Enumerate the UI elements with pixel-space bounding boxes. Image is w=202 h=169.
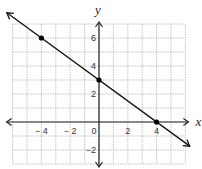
x-tick-label: − 2 <box>64 126 77 136</box>
x-tick-label: 4 <box>154 126 159 136</box>
x-tick-label: 2 <box>125 126 130 136</box>
y-tick-label: 2 <box>91 89 96 99</box>
data-point <box>39 35 44 40</box>
y-tick-label: 4 <box>91 61 96 71</box>
y-tick-label: −2 <box>86 145 96 155</box>
x-tick-label: − 4 <box>35 126 48 136</box>
data-point <box>96 77 101 82</box>
y-axis-label: y <box>93 2 101 17</box>
axes <box>7 22 189 167</box>
data-point <box>154 119 159 124</box>
y-tick-label: 6 <box>91 33 96 43</box>
x-tick-label: 0 <box>91 126 96 136</box>
line-graph: − 4− 2024642−2 x y <box>0 0 202 169</box>
x-axis-label: x <box>194 114 201 129</box>
